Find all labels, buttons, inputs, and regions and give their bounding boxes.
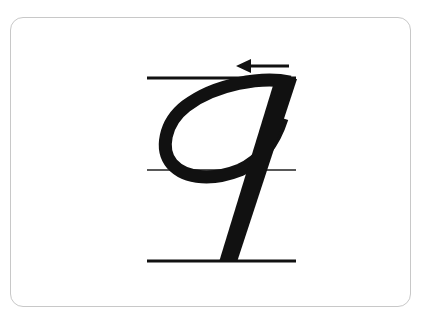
letter-guide-illustration — [0, 0, 428, 318]
arrow-left-icon — [236, 59, 289, 73]
